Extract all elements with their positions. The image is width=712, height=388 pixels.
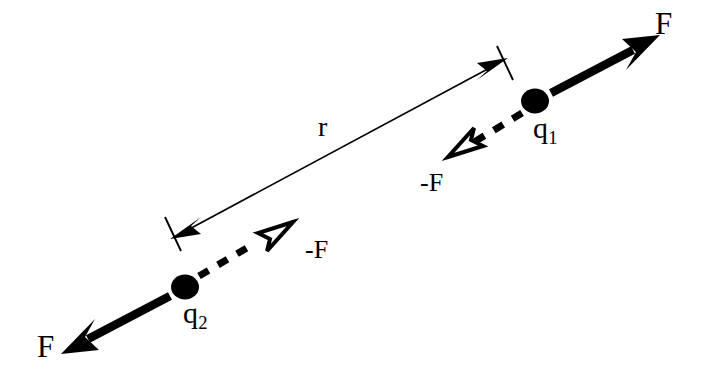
charge-label-q1: q1 [533, 113, 557, 143]
force-arrow-q2-shaft [88, 296, 170, 339]
reaction-arrow-q2-shaft [199, 245, 252, 276]
reaction-arrow-q1 [448, 113, 522, 157]
charge-label-q2-text: q [183, 296, 198, 329]
force-label-q2: F [37, 331, 54, 362]
charge-label-q2: q2 [183, 298, 207, 328]
charge-q1-dot [521, 89, 549, 114]
coulomb-force-diagram: F F -F -F q1 q2 r [0, 0, 712, 388]
separation-label: r [318, 113, 327, 141]
charge-label-q1-text: q [533, 111, 548, 144]
reaction-arrow-q2 [199, 222, 293, 276]
reaction-label-q1: -F [420, 170, 443, 196]
charge-label-q1-subscript: 1 [548, 127, 557, 148]
separation-dimension-line [165, 46, 513, 251]
separation-line-shaft [182, 64, 497, 233]
charge-label-q2-subscript: 2 [198, 312, 207, 333]
figure-canvas [0, 0, 712, 388]
force-arrow-q1 [551, 35, 660, 93]
force-arrow-q1-shaft [551, 50, 633, 93]
force-arrow-q2 [61, 296, 170, 354]
force-label-q1: F [655, 8, 672, 39]
reaction-arrow-q2-head [258, 222, 293, 251]
reaction-label-q2: -F [305, 237, 328, 263]
reaction-arrow-q1-head [448, 128, 483, 157]
reaction-arrow-q1-shaft [471, 113, 522, 144]
